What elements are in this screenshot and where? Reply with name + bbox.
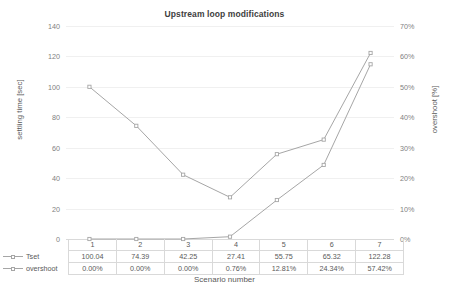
x-axis-title: Scenario number [0, 275, 449, 284]
table-cell-value: 27.41 [212, 251, 260, 263]
table-row-tset: Tset 100.0474.3942.2527.4155.7565.32122.… [0, 251, 404, 263]
y-axis-left-tick-label: 100 [20, 83, 60, 92]
data-point-marker [182, 173, 185, 176]
chart-container: Upstream loop modifications settling tim… [0, 0, 449, 295]
data-point-marker [369, 63, 372, 66]
y-axis-left-tick-label: 40 [20, 174, 60, 183]
y-axis-left-tick-label: 80 [20, 113, 60, 122]
legend-item-tset[interactable]: Tset [0, 251, 69, 263]
data-point-marker [322, 138, 325, 141]
y-axis-right-tick-label: 30% [400, 144, 440, 153]
series-line-overshoot [89, 64, 370, 239]
series-lines [66, 26, 394, 239]
legend-label-tset: Tset [26, 251, 39, 262]
table-cell-category: 5 [260, 239, 308, 251]
table-row-categories: 1234567 [0, 239, 404, 251]
table-cell-category: 2 [116, 239, 164, 251]
table-cell-value: 12.81% [260, 263, 308, 275]
data-point-marker [369, 51, 372, 54]
table-cell-value: 65.32 [308, 251, 356, 263]
data-table: 1234567 Tset 100.0474.3942.2527.4155.756… [0, 239, 404, 275]
table-cell-value: 57.42% [356, 263, 404, 275]
legend-label-overshoot: overshoot [26, 263, 58, 274]
y-axis-right-tick-label: 70% [400, 22, 440, 31]
chart-title: Upstream loop modifications [0, 9, 449, 19]
table-cell-value: 42.25 [164, 251, 212, 263]
table-cell-value: 0.00% [69, 263, 117, 275]
table-cell-value: 0.76% [212, 263, 260, 275]
table-cell-category: 6 [308, 239, 356, 251]
y-axis-left-tick-label: 60 [20, 144, 60, 153]
data-point-marker [322, 163, 325, 166]
table-row-overshoot: overshoot 0.00%0.00%0.00%0.76%12.81%24.3… [0, 263, 404, 275]
series-line-tset [89, 53, 370, 197]
y-axis-right-tick-label: 60% [400, 52, 440, 61]
legend-cell-empty [0, 239, 69, 251]
table-cell-value: 100.04 [69, 251, 117, 263]
data-point-marker [135, 124, 138, 127]
table-cell-value: 0.00% [164, 263, 212, 275]
plot-area [66, 26, 394, 239]
table-cell-value: 55.75 [260, 251, 308, 263]
table-cell-value: 122.28 [356, 251, 404, 263]
table-cell-value: 24.34% [308, 263, 356, 275]
table-cell-category: 4 [212, 239, 260, 251]
y-axis-right-tick-label: 40% [400, 113, 440, 122]
table-cell-category: 7 [356, 239, 404, 251]
data-point-marker [88, 85, 91, 88]
data-point-marker [228, 235, 231, 238]
y-axis-left-tick-label: 20 [20, 205, 60, 214]
data-point-marker [275, 198, 278, 201]
y-axis-left-tick-label: 140 [20, 22, 60, 31]
line-marker-icon [2, 265, 24, 273]
legend-item-overshoot[interactable]: overshoot [0, 263, 69, 275]
y-axis-right-tick-label: 0% [400, 235, 440, 244]
table-cell-value: 0.00% [116, 263, 164, 275]
table-cell-category: 1 [69, 239, 117, 251]
y-axis-right-tick-label: 50% [400, 83, 440, 92]
line-marker-icon [2, 253, 24, 261]
data-point-marker [228, 196, 231, 199]
table-cell-category: 3 [164, 239, 212, 251]
y-axis-left-tick-label: 120 [20, 52, 60, 61]
y-axis-right-tick-label: 10% [400, 205, 440, 214]
data-point-marker [275, 153, 278, 156]
y-axis-right-tick-label: 20% [400, 174, 440, 183]
table-cell-value: 74.39 [116, 251, 164, 263]
